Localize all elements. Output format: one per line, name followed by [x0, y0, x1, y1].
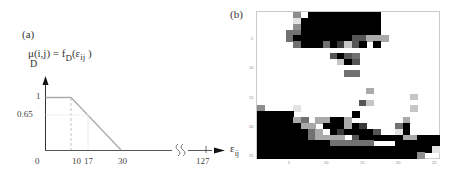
x-tick-127: 127	[196, 156, 210, 166]
x-tick-0: 0	[35, 156, 40, 166]
x-axis-arrow-icon	[214, 148, 225, 154]
panel-b-label: (b)	[230, 8, 243, 20]
y-tick-1: 1	[36, 91, 41, 101]
heatmap-cell	[373, 41, 381, 47]
axis-break-icon	[176, 144, 180, 156]
heatmap-cell	[293, 105, 301, 111]
y-tick-0-65: 0.65	[17, 109, 33, 119]
heatmap-x-tick-25: 25	[432, 160, 436, 165]
heatmap-y-tick-20: 20	[249, 124, 253, 129]
heatmap-x-tick-15: 15	[360, 160, 364, 165]
heatmap	[256, 11, 440, 159]
heatmap-cell	[352, 59, 360, 65]
heatmap-y-tick-5: 5	[251, 36, 253, 41]
x-tick-17: 17	[84, 156, 93, 166]
heatmap-x-tick-20: 20	[396, 160, 400, 165]
y-axis-arrow-icon	[43, 76, 49, 85]
heatmap-cell	[366, 100, 374, 106]
heatmap-y-tick-25: 25	[249, 153, 253, 158]
x-axis-label-main: ε	[230, 142, 235, 154]
x-axis-label-sub: ij	[235, 149, 239, 158]
heatmap-cell	[359, 41, 367, 47]
heatmap-cell	[352, 111, 360, 117]
heatmap-cell	[417, 152, 425, 158]
heatmap-x-tick-5: 5	[288, 160, 290, 165]
heatmap-cell	[432, 146, 440, 152]
heatmap-y-tick-10: 10	[249, 65, 253, 70]
heatmap-y-tick-15: 15	[249, 95, 253, 100]
x-tick-30: 30	[118, 156, 127, 166]
heatmap-cell	[366, 88, 374, 94]
x-tick-10: 10	[72, 156, 81, 166]
membership-curve	[46, 98, 122, 151]
heatmap-cell	[410, 105, 418, 111]
heatmap-cell	[381, 35, 389, 41]
heatmap-cell	[352, 70, 360, 76]
heatmap-cell	[410, 94, 418, 100]
x-axis-label: εij	[230, 142, 239, 154]
heatmap-x-tick-10: 10	[324, 160, 328, 165]
